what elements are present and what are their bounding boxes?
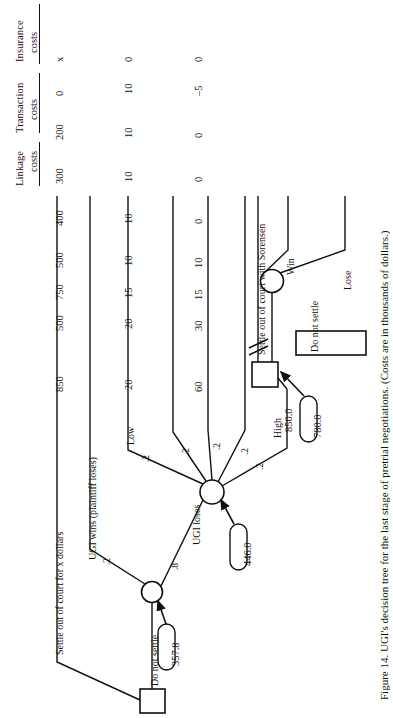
label-ugi-loses: UGI loses: [191, 505, 202, 545]
label-lose: Lose: [342, 271, 353, 290]
value-chance2-ev: 446.0: [242, 542, 253, 566]
value-decision-ev: 780.0: [312, 414, 323, 438]
prob-ugi-wins: .2: [102, 558, 112, 565]
label-settle-x: Settle out of court for x dollars: [54, 532, 65, 655]
prob-mid1: .2: [181, 448, 191, 455]
prob-ugi-loses: .8: [170, 563, 180, 570]
value-root-ev: 357.8: [170, 642, 181, 666]
branch-outcome-2: [173, 196, 206, 481]
branch-high-to-square: [278, 378, 287, 389]
branch-ugi-wins: [90, 196, 145, 584]
prob-mid3: .2: [240, 448, 250, 455]
value-arrow-root: [158, 601, 166, 624]
label-settle-sorensen: Settle out of court with Sorensen: [256, 224, 267, 355]
label-ugi-wins: UGI wins (plaintiff loses): [87, 457, 98, 560]
label-high: High: [272, 418, 283, 438]
value-arrow-chance2: [221, 500, 234, 524]
prob-high: .2: [255, 463, 265, 470]
prob-low: .2: [141, 455, 151, 462]
label-win: Win: [285, 258, 296, 275]
label-low: Low: [125, 427, 136, 445]
chance-node-1: [142, 582, 163, 603]
branch-outcome-3: [208, 196, 212, 480]
value-arrow-decision: [281, 372, 304, 396]
root-decision-node: [140, 689, 165, 713]
prob-mid2: .2: [212, 443, 222, 450]
branch-outcome-4: [218, 196, 245, 482]
figure-page: Insurance costs Transaction costs Linkag…: [0, 0, 393, 718]
stage2-decision-node: [252, 362, 278, 387]
value-high-branch: 850.0: [283, 408, 294, 432]
label-do-not-settle-2: Do not settle: [309, 301, 320, 352]
branch-low: [128, 196, 203, 484]
figure-caption: Figure 14. UGI's decision tree for the l…: [378, 231, 390, 700]
label-do-not-settle-root: Do not settle: [149, 635, 160, 686]
do-not-settle-callout-box: [296, 331, 366, 355]
